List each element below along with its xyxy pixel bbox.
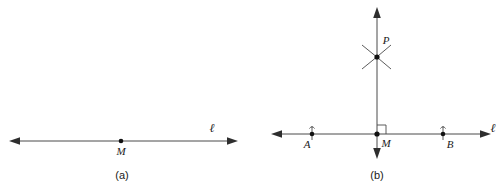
panel-b-right-arrowhead-icon xyxy=(480,130,491,138)
panel-b-point-A-label: A xyxy=(303,138,311,150)
panel-a-line-label: ℓ xyxy=(210,121,215,135)
panel-b-point-A-dot xyxy=(310,132,315,137)
panel-b-bottom-arrowhead-icon xyxy=(373,148,381,159)
panel-a-left-arrowhead-icon xyxy=(9,137,20,145)
panel-b-top-arrowhead-icon xyxy=(373,7,381,18)
panel-b-point-M-dot xyxy=(374,131,379,136)
figure-canvas: M ℓ (a) xyxy=(0,0,501,192)
panel-b-point-M-label: M xyxy=(380,137,391,149)
panel-b-point-P-dot xyxy=(374,54,379,59)
panel-b-left-arrowhead-icon xyxy=(271,130,282,138)
geometry-figure: M ℓ (a) xyxy=(0,0,501,192)
panel-b-point-P-label: P xyxy=(382,34,390,46)
panel-b-point-B-dot xyxy=(441,132,446,137)
panel-a: M ℓ (a) xyxy=(9,121,238,181)
panel-a-right-arrowhead-icon xyxy=(227,137,238,145)
panel-b-point-B-label: B xyxy=(447,138,454,150)
panel-a-caption: (a) xyxy=(115,169,128,181)
panel-a-point-M-label: M xyxy=(115,145,126,157)
panel-b-caption: (b) xyxy=(370,169,383,181)
panel-b-line-label: ℓ xyxy=(491,121,496,135)
panel-b: A M B P ℓ (b) xyxy=(271,7,496,181)
panel-a-point-M-dot xyxy=(119,139,124,144)
